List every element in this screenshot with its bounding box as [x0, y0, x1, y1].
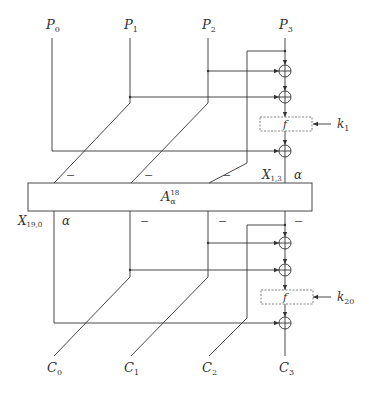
minus-mark: − [144, 169, 153, 182]
label-c0: C0 [47, 360, 62, 377]
label-p2: P2 [201, 17, 216, 34]
alpha-bottom: α [62, 214, 70, 228]
label-p3: P3 [278, 17, 293, 34]
label-p1: P1 [123, 17, 138, 34]
xor-icon [279, 264, 291, 276]
minus-mark: − [140, 215, 149, 228]
label-c3: C3 [279, 360, 294, 377]
xor-icon [279, 317, 291, 329]
label-x13: X1,3 [261, 168, 282, 183]
block-label: A18α [160, 189, 179, 206]
xor-icon [279, 91, 291, 103]
xor-icon [279, 237, 291, 249]
f-label-bottom: f [282, 291, 289, 304]
alpha-top: α [294, 168, 302, 182]
label-c1: C1 [124, 360, 139, 377]
wire-p0 [52, 38, 279, 151]
xor-icon [279, 145, 291, 157]
feistel-diagram: P0 P1 P2 P3 f f k1 k20 − − − X1,3 α A18α… [0, 0, 369, 394]
label-c2: C2 [202, 360, 217, 377]
wire-bottom-0 [54, 211, 279, 323]
key-k20: k20 [337, 290, 354, 306]
f-label-top: f [282, 118, 289, 131]
minus-mark: − [218, 215, 227, 228]
minus-mark: − [66, 169, 75, 182]
xor-icon [279, 65, 291, 77]
minus-mark: − [294, 215, 303, 228]
minus-mark: − [222, 169, 231, 182]
key-k1: k1 [337, 117, 349, 133]
label-x190: X19,0 [17, 214, 42, 229]
label-p0: P0 [45, 17, 60, 34]
